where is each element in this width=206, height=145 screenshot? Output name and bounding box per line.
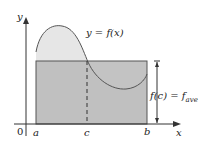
height-label: f(c) = fave (150, 90, 198, 104)
origin-label: 0 (17, 126, 23, 137)
y-axis-label: y (17, 11, 23, 22)
y-axis-arrow-icon (23, 17, 29, 24)
b-label: b (144, 126, 150, 137)
arrow-up-icon (155, 62, 159, 67)
diagram-canvas (0, 0, 206, 145)
curve-label: y = f(x) (86, 27, 124, 38)
average-rectangle (36, 61, 147, 124)
c-label: c (84, 127, 90, 138)
a-label: a (33, 127, 39, 138)
arrow-down-icon (155, 118, 159, 123)
x-axis-label: x (176, 127, 182, 138)
